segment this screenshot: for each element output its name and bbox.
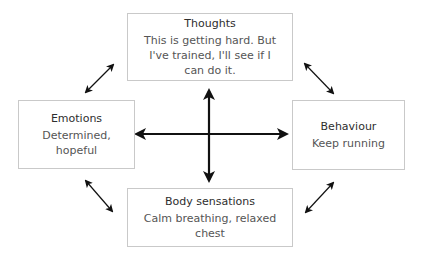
behaviour-title: Behaviour — [321, 119, 377, 134]
arrow-thoughts-behaviour — [305, 64, 333, 93]
body-sensations-title: Body sensations — [165, 194, 255, 209]
thoughts-box: Thoughts This is getting hard. But I've … — [127, 13, 293, 81]
arrow-thoughts-emotions — [86, 65, 113, 92]
body-sensations-box: Body sensations Calm breathing, relaxed … — [127, 188, 293, 247]
emotions-title: Emotions — [51, 111, 102, 126]
behaviour-text: Keep running — [312, 136, 385, 151]
emotions-box: Emotions Determined, hopeful — [18, 100, 135, 169]
arrow-emotions-body — [86, 181, 112, 211]
behaviour-box: Behaviour Keep running — [292, 100, 405, 170]
body-sensations-text: Calm breathing, relaxed chest — [140, 211, 280, 241]
emotions-text: Determined, hopeful — [37, 128, 117, 158]
thoughts-title: Thoughts — [184, 16, 235, 31]
arrow-behaviour-body — [306, 183, 333, 212]
thoughts-text: This is getting hard. But I've trained, … — [140, 33, 280, 78]
